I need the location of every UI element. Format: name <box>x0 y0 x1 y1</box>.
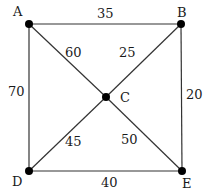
edge-weight-d-c: 45 <box>65 134 82 149</box>
edge-weight-a-c: 60 <box>65 45 82 60</box>
node-a <box>25 20 33 28</box>
edge-b-c <box>106 24 181 97</box>
node-label-d: D <box>12 174 22 189</box>
edge-weight-d-e: 40 <box>101 175 118 190</box>
edge-weight-e-c: 50 <box>121 132 138 147</box>
edge-weight-a-b: 35 <box>97 6 114 21</box>
node-label-a: A <box>12 4 23 19</box>
edge-weight-b-c: 25 <box>119 45 136 60</box>
edge-a-c <box>29 24 106 97</box>
edge-e-c <box>106 97 182 171</box>
edge-weight-b-e: 20 <box>186 87 203 102</box>
node-b <box>177 20 185 28</box>
edge-weight-a-d: 70 <box>8 84 25 99</box>
node-label-b: B <box>177 5 187 20</box>
edge-b-e <box>181 24 182 171</box>
node-label-c: C <box>120 90 130 105</box>
weighted-graph-diagram: 3570204060254550ABCDE <box>0 0 204 190</box>
node-c <box>102 93 110 101</box>
node-e <box>178 167 186 175</box>
node-label-e: E <box>182 176 192 190</box>
node-d <box>25 167 33 175</box>
